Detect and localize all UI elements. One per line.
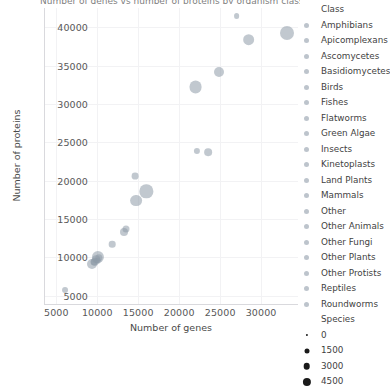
legend-item-label: Green Algae xyxy=(321,126,375,142)
legend-item-class[interactable]: Kinetoplasts xyxy=(300,157,390,173)
data-point xyxy=(109,241,116,248)
x-tick-label: 20000 xyxy=(164,307,195,318)
chart-legend: ClassAmphibiansApicomplexansAscomycetesB… xyxy=(300,2,390,390)
x-axis-line xyxy=(44,304,298,305)
legend-item-class[interactable]: Roundworms xyxy=(300,297,390,313)
legend-item-label: Land Plants xyxy=(321,173,372,189)
legend-item-label: 0 xyxy=(321,328,327,344)
legend-item-label: Flatworms xyxy=(321,111,367,127)
legend-size-dot xyxy=(305,334,307,336)
legend-color-dot xyxy=(304,224,309,229)
legend-color-dot xyxy=(304,38,309,43)
legend-item-class[interactable]: Insects xyxy=(300,142,390,158)
data-point xyxy=(120,228,128,236)
legend-item-class[interactable]: Ascomycetes xyxy=(300,49,390,65)
legend-item-size[interactable]: 1500 xyxy=(300,343,390,359)
legend-item-label: Other Plants xyxy=(321,250,376,266)
legend-color-dot xyxy=(304,23,309,28)
legend-item-label: Birds xyxy=(321,80,343,96)
legend-item-size[interactable]: 3000 xyxy=(300,359,390,375)
y-tick-label: 25000 xyxy=(57,137,88,148)
gridline-vertical xyxy=(220,8,221,305)
x-tick-label: 5000 xyxy=(44,307,69,318)
legend-item-label: Kinetoplasts xyxy=(321,157,375,173)
data-point xyxy=(189,81,202,94)
legend-item-label: Other Protists xyxy=(321,266,381,282)
legend-item-class[interactable]: Fishes xyxy=(300,95,390,111)
chart-title: Number of genes vs number of proteins by… xyxy=(40,0,300,4)
y-tick-label: 20000 xyxy=(57,175,88,186)
y-tick-label: 5000 xyxy=(63,290,88,301)
legend-color-dot xyxy=(304,54,309,59)
y-tick-label: 30000 xyxy=(57,98,88,109)
legend-item-class[interactable]: Land Plants xyxy=(300,173,390,189)
legend-item-class[interactable]: Other Fungi xyxy=(300,235,390,251)
legend-item-class[interactable]: Birds xyxy=(300,80,390,96)
legend-item-label: Basidiomycetes xyxy=(321,64,390,80)
x-tick-label: 10000 xyxy=(82,307,113,318)
legend-item-label: Fishes xyxy=(321,95,348,111)
legend-color-dot xyxy=(304,85,309,90)
legend-title-species: Species xyxy=(300,312,390,328)
legend-title-class: Class xyxy=(300,2,390,18)
legend-item-label: Amphibians xyxy=(321,18,373,34)
gridline-vertical xyxy=(179,8,180,305)
legend-item-class[interactable]: Green Algae xyxy=(300,126,390,142)
legend-item-class[interactable]: Other Protists xyxy=(300,266,390,282)
legend-color-dot xyxy=(304,302,309,307)
y-axis-title: Number of proteins xyxy=(11,91,22,221)
gridline-vertical xyxy=(138,8,139,305)
data-point xyxy=(130,195,142,207)
data-point xyxy=(140,185,153,198)
legend-item-class[interactable]: Flatworms xyxy=(300,111,390,127)
legend-color-dot xyxy=(304,255,309,260)
data-point xyxy=(122,226,129,233)
data-point xyxy=(214,67,224,77)
x-tick-label: 15000 xyxy=(123,307,154,318)
legend-size-dot xyxy=(303,363,310,370)
legend-item-label: 1500 xyxy=(321,343,343,359)
legend-size-dot xyxy=(304,348,309,353)
legend-item-label: Other Fungi xyxy=(321,235,373,251)
legend-color-dot xyxy=(304,69,309,74)
legend-item-class[interactable]: Other Plants xyxy=(300,250,390,266)
data-point xyxy=(234,13,240,19)
legend-item-label: Other xyxy=(321,204,346,220)
legend-item-size[interactable]: 4500 xyxy=(300,374,390,390)
legend-item-label: Mammals xyxy=(321,188,364,204)
legend-item-label: Roundworms xyxy=(321,297,378,313)
legend-color-dot xyxy=(304,147,309,152)
legend-item-class[interactable]: Other xyxy=(300,204,390,220)
legend-color-dot xyxy=(304,178,309,183)
data-point xyxy=(204,148,212,156)
legend-item-class[interactable]: Basidiomycetes xyxy=(300,64,390,80)
legend-item-class[interactable]: Mammals xyxy=(300,188,390,204)
legend-color-dot xyxy=(304,116,309,121)
legend-color-dot xyxy=(304,286,309,291)
legend-item-size[interactable]: 0 xyxy=(300,328,390,344)
y-axis-line xyxy=(44,8,45,305)
legend-color-dot xyxy=(304,209,309,214)
data-point xyxy=(243,34,255,46)
gridline-vertical xyxy=(97,8,98,305)
y-tick-label: 10000 xyxy=(57,252,88,263)
x-axis-title: Number of genes xyxy=(44,322,298,333)
legend-size-dot xyxy=(302,378,310,386)
x-tick-label: 30000 xyxy=(246,307,277,318)
y-tick-label: 40000 xyxy=(57,22,88,33)
gridline-vertical xyxy=(261,8,262,305)
legend-item-class[interactable]: Reptiles xyxy=(300,281,390,297)
legend-item-label: Reptiles xyxy=(321,281,356,297)
legend-item-label: Insects xyxy=(321,142,352,158)
legend-item-class[interactable]: Other Animals xyxy=(300,219,390,235)
legend-item-label: 4500 xyxy=(321,374,343,390)
legend-item-class[interactable]: Amphibians xyxy=(300,18,390,34)
legend-color-dot xyxy=(304,193,309,198)
x-tick-label: 25000 xyxy=(205,307,236,318)
legend-color-dot xyxy=(304,131,309,136)
legend-color-dot xyxy=(304,271,309,276)
legend-color-dot xyxy=(304,240,309,245)
legend-item-class[interactable]: Apicomplexans xyxy=(300,33,390,49)
legend-item-label: Ascomycetes xyxy=(321,49,379,65)
